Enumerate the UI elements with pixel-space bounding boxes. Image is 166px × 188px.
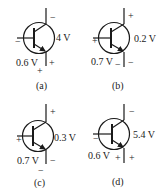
panel-d-vbe-emitter-sign: + bbox=[115, 153, 121, 163]
panel-c-collector-sign: + bbox=[50, 107, 56, 117]
panel-b-emitter-sign: − bbox=[128, 58, 134, 68]
panel-c-caption: (c) bbox=[34, 178, 45, 188]
panel-b-caption: (b) bbox=[112, 81, 124, 91]
panel-a-emitter-sign: + bbox=[49, 58, 55, 68]
transistor-a-collector bbox=[34, 24, 46, 32]
panel-b-vbe-label: 0.7 V bbox=[91, 57, 113, 67]
panel-b-vbe-emitter-sign: − bbox=[115, 60, 121, 70]
panel-b-vce-label: 0.2 V bbox=[134, 34, 156, 44]
panel-d-caption: (d) bbox=[112, 177, 124, 187]
panel-d-vbe-label: 0.6 V bbox=[88, 151, 110, 161]
transistor-diagram: − − 4 V 0.6 V + + (a) + + 0.2 V 0.7 V − … bbox=[0, 0, 166, 188]
panel-a-caption: (a) bbox=[36, 81, 47, 91]
panel-a-vce-label: 4 V bbox=[56, 33, 71, 43]
panel-a-vbe-label: 0.6 V bbox=[16, 58, 38, 68]
panel-a-vbe-emitter-sign: + bbox=[37, 66, 43, 76]
panel-c-vce-label: 0.3 V bbox=[54, 133, 76, 143]
panel-d-emitter-sign: + bbox=[129, 153, 135, 163]
panel-c-vbe-label: 0.7 V bbox=[17, 156, 39, 166]
panel-a-base-sign: − bbox=[15, 37, 21, 47]
transistor-d-emitter-arrow bbox=[112, 140, 123, 147]
panel-d-collector-sign: − bbox=[129, 107, 135, 117]
transistor-c-emitter-arrow bbox=[33, 142, 45, 149]
transistor-b-collector bbox=[111, 24, 124, 32]
transistor-b-emitter-arrow bbox=[111, 44, 123, 51]
panel-d-vce-label: 5.4 V bbox=[133, 130, 155, 140]
panel-a-collector-sign: − bbox=[50, 13, 56, 23]
transistor-a-emitter-arrow bbox=[34, 44, 45, 51]
transistor-d-collector bbox=[112, 120, 124, 128]
panel-c-emitter-sign: − bbox=[50, 156, 56, 166]
panel-c-base-sign: + bbox=[16, 135, 22, 145]
panel-d-base-sign: − bbox=[93, 134, 99, 144]
panel-c-vbe-emitter-sign: − bbox=[38, 166, 44, 176]
transistor-c-collector bbox=[33, 122, 46, 130]
panel-b-collector-sign: + bbox=[128, 11, 134, 21]
panel-b-base-sign: + bbox=[92, 36, 98, 46]
